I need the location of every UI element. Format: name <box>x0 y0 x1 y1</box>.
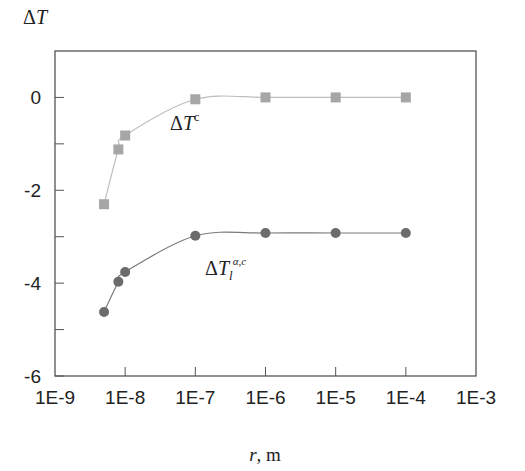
data-point-square <box>113 144 123 154</box>
x-tick-label: 1E-9 <box>35 387 75 408</box>
y-tick-label: -4 <box>24 273 41 294</box>
x-tick-label: 1E-8 <box>105 387 145 408</box>
data-point-circle <box>261 228 271 238</box>
series-line <box>104 96 406 204</box>
series-line <box>104 232 406 312</box>
chart: 0-2-4-61E-91E-81E-71E-61E-51E-41E-3 ΔT r… <box>0 0 525 471</box>
series-label-dtc: ΔTc <box>170 110 199 134</box>
data-point-circle <box>331 228 341 238</box>
data-point-square <box>401 92 411 102</box>
series-points <box>99 92 411 316</box>
series-label-dtl: ΔTlα,c <box>205 255 246 283</box>
data-point-circle <box>401 228 411 238</box>
x-tick-label: 1E-7 <box>175 387 215 408</box>
y-tick-label: -6 <box>24 366 41 387</box>
x-tick-label: 1E-6 <box>245 387 285 408</box>
data-point-square <box>261 92 271 102</box>
x-axis-label: r, m <box>249 444 281 465</box>
data-point-square <box>190 94 200 104</box>
data-point-circle <box>99 307 109 317</box>
y-axis-label: ΔT <box>23 6 49 28</box>
data-point-circle <box>120 267 130 277</box>
data-point-square <box>99 199 109 209</box>
y-tick-label: -2 <box>24 180 41 201</box>
x-tick-label: 1E-3 <box>456 387 496 408</box>
data-point-circle <box>190 231 200 241</box>
axes: 0-2-4-61E-91E-81E-71E-61E-51E-41E-3 <box>24 51 496 408</box>
data-point-square <box>120 131 130 141</box>
data-point-circle <box>113 277 123 287</box>
x-tick-label: 1E-5 <box>316 387 356 408</box>
y-tick-label: 0 <box>30 87 41 108</box>
x-tick-label: 1E-4 <box>386 387 427 408</box>
series-curves <box>104 96 406 312</box>
data-point-square <box>331 92 341 102</box>
